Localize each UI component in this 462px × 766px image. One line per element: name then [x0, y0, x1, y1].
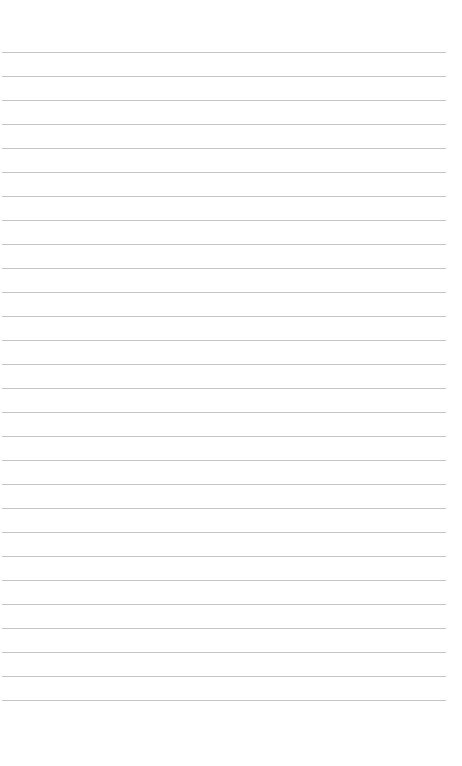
- ruled-line: [2, 172, 446, 173]
- ruled-line: [2, 340, 446, 341]
- ruled-line: [2, 652, 446, 653]
- ruled-line: [2, 436, 446, 437]
- lined-paper-page: [0, 0, 462, 766]
- ruled-line: [2, 412, 446, 413]
- ruled-line: [2, 628, 446, 629]
- ruled-line: [2, 460, 446, 461]
- ruled-line: [2, 292, 446, 293]
- ruled-line: [2, 388, 446, 389]
- ruled-line: [2, 316, 446, 317]
- ruled-line: [2, 532, 446, 533]
- ruled-line: [2, 100, 446, 101]
- ruled-line: [2, 556, 446, 557]
- ruled-line: [2, 700, 446, 701]
- ruled-line: [2, 148, 446, 149]
- ruled-line: [2, 76, 446, 77]
- ruled-line: [2, 268, 446, 269]
- ruled-line: [2, 676, 446, 677]
- ruled-line: [2, 580, 446, 581]
- ruled-line: [2, 196, 446, 197]
- ruled-line: [2, 52, 446, 53]
- ruled-line: [2, 124, 446, 125]
- ruled-line: [2, 220, 446, 221]
- ruled-line: [2, 484, 446, 485]
- ruled-line: [2, 508, 446, 509]
- ruled-line: [2, 604, 446, 605]
- ruled-line: [2, 244, 446, 245]
- ruled-line: [2, 364, 446, 365]
